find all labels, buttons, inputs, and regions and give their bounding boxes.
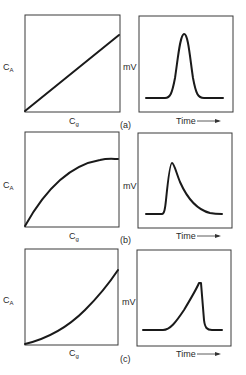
y-axis-label: mV <box>123 62 137 72</box>
isotherm-peak-diagram: CA Cg mV Time (a) CA Cg mV Time (b) <box>0 0 246 375</box>
arrowhead-icon <box>215 119 221 123</box>
concave-curve <box>25 159 118 226</box>
y-axis-label: CA <box>3 295 14 306</box>
fronting-peak <box>143 283 222 330</box>
plot-frame <box>25 15 120 112</box>
x-axis-label: Time <box>176 116 196 126</box>
x-axis-label: Time <box>176 349 196 359</box>
y-axis-label: CA <box>3 180 14 191</box>
panel-caption: (b) <box>120 235 131 245</box>
panel-caption: (a) <box>120 120 131 130</box>
plot-frame <box>25 249 118 345</box>
arrowhead-icon <box>215 352 221 356</box>
x-axis-label: Cg <box>69 231 79 242</box>
plot-frame <box>25 132 119 227</box>
y-axis-label: mV <box>123 181 137 191</box>
panel-a: CA Cg mV Time (a) <box>3 15 233 130</box>
signal-plot-b: mV Time <box>123 133 232 241</box>
x-axis-label: Time <box>176 231 196 241</box>
y-axis-label: CA <box>3 62 14 73</box>
x-axis-label: Cg <box>69 348 79 359</box>
linear-curve <box>25 35 119 111</box>
convex-curve <box>25 270 118 344</box>
calibration-plot-b: CA Cg <box>3 132 119 242</box>
tailing-peak <box>146 163 222 214</box>
arrowhead-icon <box>215 234 221 238</box>
signal-plot-c: mV Time <box>122 250 231 359</box>
x-axis-label: Cg <box>69 116 79 127</box>
signal-plot-a: mV Time <box>123 16 233 126</box>
plot-frame <box>137 250 231 346</box>
panel-caption: (c) <box>120 354 131 364</box>
y-axis-label: mV <box>122 297 136 307</box>
panel-c: CA Cg mV Time (c) <box>3 249 231 364</box>
calibration-plot-c: CA Cg <box>3 249 118 359</box>
gaussian-peak <box>146 34 223 98</box>
calibration-plot-a: CA Cg <box>3 15 120 127</box>
panel-b: CA Cg mV Time (b) <box>3 132 232 245</box>
